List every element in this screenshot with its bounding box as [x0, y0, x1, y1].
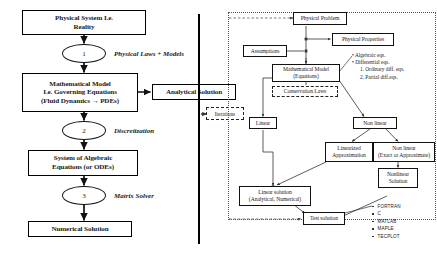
box-analytical-solution: Analytical Solution [152, 84, 236, 100]
equation-type-item: • Differential eqs. [352, 59, 404, 66]
box-mathematical-model-label: Mathematical Model I.e. Governing Equati… [41, 80, 119, 106]
box-linear-solution-label: Linear solution (Analytical, Numerical) [249, 189, 301, 202]
box-non-linear-exact: Non linear (Exact or Approximate) [373, 142, 435, 162]
equation-types-list: • Algebraic eqs. • Differential eqs. 1. … [352, 52, 404, 81]
box-analytical-solution-label: Analytical Solution [166, 88, 222, 97]
software-item: MATLAB [372, 218, 401, 225]
box-physical-properties-label: Physical Properties [342, 36, 384, 43]
step-2-caption: Discretization [114, 127, 154, 135]
software-item: MAPLE [372, 225, 401, 232]
box-physical-system: Physical System I.e. Reality [22, 10, 146, 35]
box-assumptions-label: Assumptions [251, 48, 280, 55]
software-item: C [372, 210, 401, 217]
bullet-icon [372, 236, 374, 238]
box-conservation-laws: Conservation Laws [272, 86, 338, 97]
box-linear-solution: Linear solution (Analytical, Numerical) [239, 186, 311, 206]
equation-type-item: 1. Ordinary diff. eqs. [352, 66, 404, 73]
box-assumptions: Assumptions [243, 45, 287, 57]
box-system-algebraic-label: System of Algebraic Equations (or ODEs) [52, 154, 114, 171]
step-3-caption: Matrix Solver [114, 192, 154, 200]
panel-divider [198, 14, 200, 244]
box-numerical-solution-label: Numerical Solution [51, 225, 108, 234]
box-linearized-approximation-label: Linearized Approximation [332, 145, 366, 158]
box-mathematical-model-eq-label: Mathematical Model (Equations) [283, 66, 329, 79]
box-physical-problem: Physical Problem [293, 12, 347, 25]
box-mathematical-model: Mathematical Model I.e. Governing Equati… [22, 73, 138, 112]
box-physical-system-label: Physical System I.e. Reality [55, 14, 113, 31]
box-test-solution: Test solution [303, 212, 345, 225]
bullet-icon [372, 206, 374, 208]
box-linear: Linear [249, 117, 277, 129]
software-item-label: FORTRAN [378, 203, 401, 210]
step-1-number: 1 [82, 50, 86, 58]
software-list: FORTRAN C MATLAB MAPLE TECPLOT [372, 203, 401, 240]
box-non-linear-label: Non linear [363, 120, 386, 127]
box-linear-label: Linear [256, 120, 270, 127]
box-test-solution-label: Test solution [310, 215, 338, 222]
software-item-label: C [378, 210, 381, 217]
step-1-ellipse: 1 [62, 44, 106, 63]
software-item-label: MAPLE [378, 225, 394, 232]
bullet-icon [372, 221, 374, 223]
equation-type-item: 2. Partial diff.eqs. [352, 74, 404, 81]
box-nonlinear-solution-label: Nonlinear Solution [387, 171, 409, 184]
step-2-ellipse: 2 [62, 121, 106, 140]
step-1-caption: Physical Laws + Models [114, 50, 184, 58]
bullet-icon [372, 228, 374, 230]
step-2-number: 2 [82, 127, 86, 135]
diagram-canvas: Physical System I.e. Reality 1 Physical … [0, 0, 437, 258]
software-item-label: TECPLOT [378, 233, 400, 240]
software-item: TECPLOT [372, 233, 401, 240]
box-physical-problem-label: Physical Problem [301, 15, 340, 22]
box-system-algebraic: System of Algebraic Equations (or ODEs) [28, 150, 138, 176]
box-physical-properties: Physical Properties [332, 33, 394, 46]
box-conservation-laws-label: Conservation Laws [284, 88, 327, 95]
box-numerical-solution: Numerical Solution [28, 221, 132, 237]
step-3-number: 3 [82, 192, 86, 200]
box-mathematical-model-eq: Mathematical Model (Equations) [272, 64, 340, 82]
box-nonlinear-solution: Nonlinear Solution [378, 168, 418, 188]
box-non-linear-exact-label: Non linear (Exact or Approximate) [378, 145, 430, 158]
software-item: FORTRAN [372, 203, 401, 210]
step-3-ellipse: 3 [62, 186, 106, 205]
software-item-label: MATLAB [378, 218, 397, 225]
box-linearized-approximation: Linearized Approximation [325, 142, 373, 162]
bullet-icon [372, 213, 374, 215]
box-non-linear: Non linear [353, 117, 397, 129]
equation-type-item: • Algebraic eqs. [352, 52, 404, 59]
